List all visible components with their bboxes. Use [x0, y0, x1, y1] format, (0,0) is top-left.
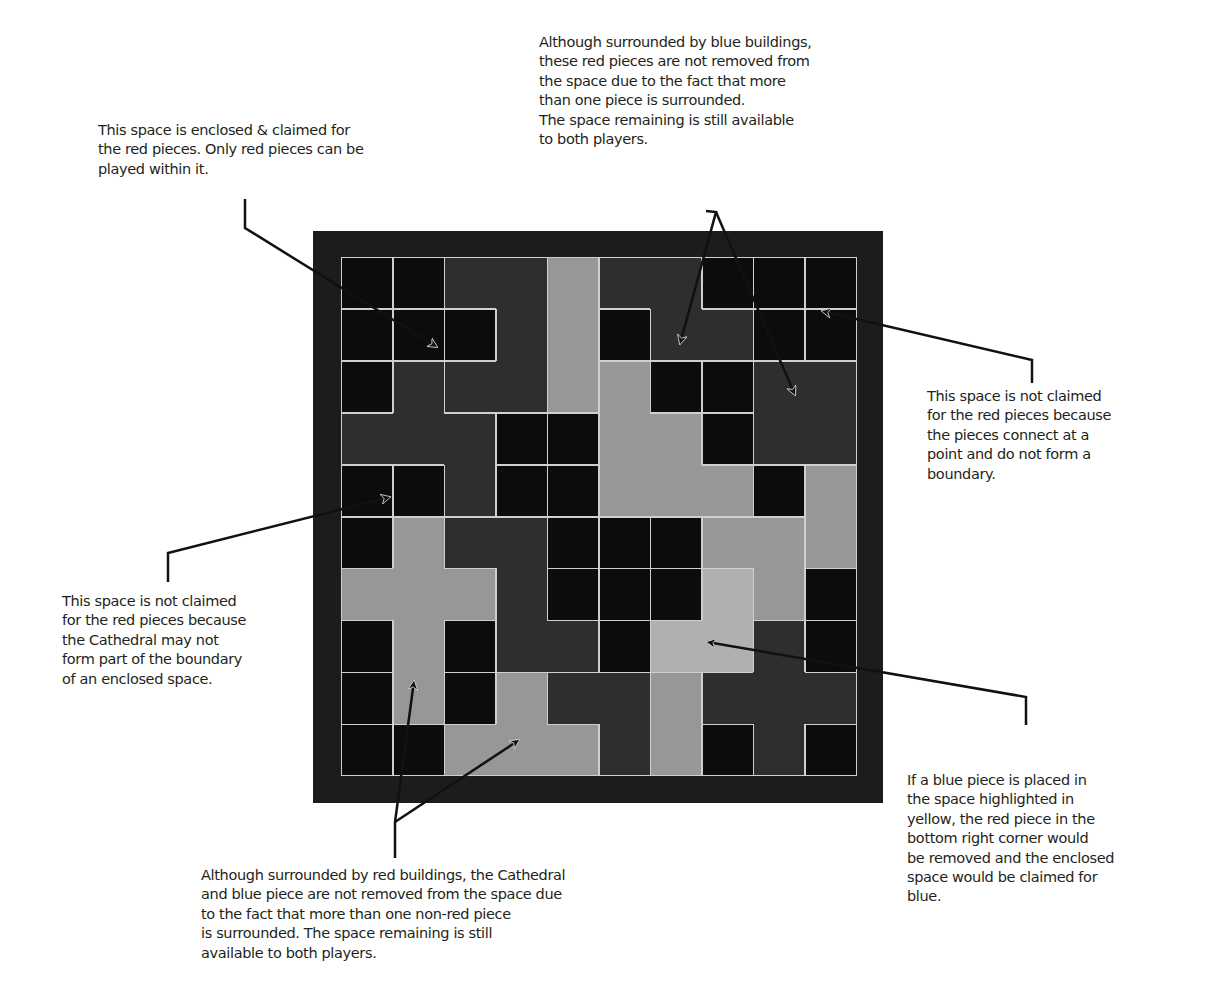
board-cell: [599, 257, 651, 309]
board-cell: [753, 620, 805, 672]
board-cell: [341, 568, 393, 620]
board-cell: [496, 309, 548, 361]
board-cell: [444, 568, 496, 620]
board-cell: [702, 620, 754, 672]
board-cell: [702, 309, 754, 361]
board-cell: [547, 413, 599, 465]
board-cell: [702, 257, 754, 309]
board-cell: [444, 361, 496, 413]
board-cell: [496, 257, 548, 309]
board-cell: [702, 517, 754, 569]
board-cell: [341, 620, 393, 672]
board-cell: [599, 517, 651, 569]
board-cell: [753, 465, 805, 517]
board-cell: [805, 257, 857, 309]
board-cell: [753, 257, 805, 309]
board-cell: [753, 568, 805, 620]
board-cell: [393, 413, 445, 465]
board-cell: [599, 724, 651, 776]
annotation-cathedral-boundary: This space is not claimed for the red pi…: [62, 592, 246, 689]
board-cell: [547, 620, 599, 672]
board-cell: [650, 724, 702, 776]
board-cell: [702, 672, 754, 724]
board-cell: [496, 413, 548, 465]
board-cell: [496, 361, 548, 413]
board-cell: [444, 465, 496, 517]
board-cell: [599, 465, 651, 517]
board-cell: [496, 724, 548, 776]
board-cell: [393, 724, 445, 776]
board-cell: [547, 568, 599, 620]
board-cell: [393, 517, 445, 569]
board-cell: [753, 517, 805, 569]
board-cell: [702, 413, 754, 465]
board-cell: [496, 517, 548, 569]
board-grid: [341, 257, 856, 776]
board-cell: [393, 465, 445, 517]
board-cell: [599, 672, 651, 724]
board-cell: [650, 465, 702, 517]
board-cell: [547, 309, 599, 361]
board-cell: [805, 568, 857, 620]
board-cell: [753, 724, 805, 776]
board-cell: [393, 568, 445, 620]
board-cell: [341, 309, 393, 361]
board-cell: [650, 568, 702, 620]
board-cell: [599, 620, 651, 672]
board-cell: [650, 361, 702, 413]
board-cell: [805, 309, 857, 361]
board-cell: [341, 724, 393, 776]
board-cell: [805, 413, 857, 465]
board-cell: [599, 568, 651, 620]
board-cell: [393, 257, 445, 309]
board-cell: [393, 672, 445, 724]
board-cell: [393, 361, 445, 413]
board-cell: [650, 257, 702, 309]
board-cell: [805, 620, 857, 672]
annotation-enclosed-claimed: This space is enclosed & claimed for the…: [98, 121, 364, 179]
board-cell: [650, 620, 702, 672]
board-cell: [341, 672, 393, 724]
board-cell: [444, 672, 496, 724]
board-cell: [650, 309, 702, 361]
board-cell: [393, 620, 445, 672]
board-cell: [702, 361, 754, 413]
board-cell: [805, 724, 857, 776]
board-cell: [547, 361, 599, 413]
board-cell: [702, 568, 754, 620]
board-cell: [599, 413, 651, 465]
board-cell: [444, 413, 496, 465]
board-cell: [444, 309, 496, 361]
board-cell: [753, 672, 805, 724]
board-cell: [702, 724, 754, 776]
annotation-cathedral-not-removed: Although surrounded by red buildings, th…: [201, 866, 565, 963]
board-cell: [805, 465, 857, 517]
board-cell: [547, 465, 599, 517]
board-cell: [547, 724, 599, 776]
board-cell: [805, 517, 857, 569]
board-cell: [496, 465, 548, 517]
annotation-red-pieces-not-removed: Although surrounded by blue buildings, t…: [539, 33, 811, 149]
board-cell: [444, 724, 496, 776]
board-cell: [599, 361, 651, 413]
board-cell: [753, 361, 805, 413]
annotation-point-connection: This space is not claimed for the red pi…: [927, 387, 1111, 484]
board-cell: [341, 517, 393, 569]
board-cell: [496, 568, 548, 620]
board-cell: [444, 620, 496, 672]
board-cell: [341, 465, 393, 517]
board-cell: [547, 672, 599, 724]
annotation-yellow-highlight: If a blue piece is placed in the space h…: [907, 771, 1114, 907]
board-cell: [496, 672, 548, 724]
board-cell: [496, 620, 548, 672]
board-cell: [444, 257, 496, 309]
board-cell: [650, 517, 702, 569]
board-cell: [547, 257, 599, 309]
board-cell: [547, 517, 599, 569]
board-cell: [650, 413, 702, 465]
board-cell: [805, 361, 857, 413]
board-cell: [753, 413, 805, 465]
board-cell: [341, 257, 393, 309]
board-cell: [805, 672, 857, 724]
board-cell: [341, 413, 393, 465]
